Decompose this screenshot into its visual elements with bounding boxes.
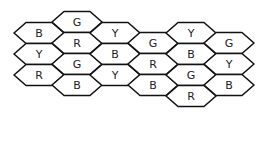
hex-label: Y	[111, 27, 119, 40]
hex-label: Y	[35, 48, 43, 61]
hex-label: B	[111, 48, 119, 61]
hex-label: B	[149, 79, 157, 92]
hex-label: R	[73, 37, 81, 50]
hex-label: B	[35, 27, 43, 40]
hex-label: R	[187, 90, 195, 103]
hex-label: R	[35, 69, 43, 82]
hex-label: G	[73, 58, 82, 71]
hex-label: Y	[187, 27, 195, 40]
hex-label: Y	[225, 58, 233, 71]
hex-label: R	[149, 58, 157, 71]
hex-label: G	[225, 37, 234, 50]
hex-label: G	[73, 16, 82, 29]
hex-label: B	[73, 79, 81, 92]
hex-label: G	[187, 69, 196, 82]
hex-label: B	[187, 48, 195, 61]
hex-cell: Y	[204, 54, 254, 75]
hex-cell: G	[204, 33, 254, 54]
hex-label: B	[225, 79, 233, 92]
hexagon-grid: BYRGRGBYBYGRBYBGRGYB	[0, 0, 267, 147]
hex-label: Y	[111, 69, 119, 82]
hex-label: G	[149, 37, 158, 50]
hex-cell: B	[204, 75, 254, 96]
